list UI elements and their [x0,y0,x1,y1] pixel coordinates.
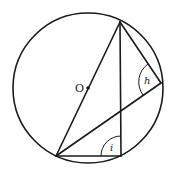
angle-h-label: h [144,75,150,86]
center-point [86,86,90,90]
chord-right-bottomleft [56,83,161,156]
angle-i-label: i [110,142,113,153]
circle-geometry-diagram: O h i [0,0,172,173]
center-label: O [75,82,84,95]
